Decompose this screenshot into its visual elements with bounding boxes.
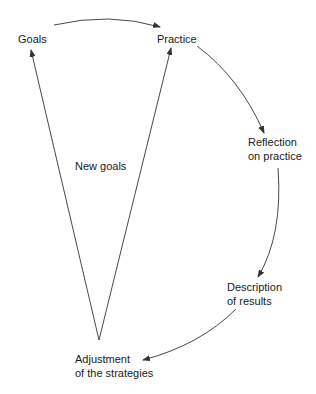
node-adjustment-line1: Adjustment [75,352,153,366]
node-adjustment: Adjustment of the strategies [75,352,153,380]
node-reflection: Reflection on practice [248,135,302,163]
node-reflection-line1: Reflection [248,135,302,149]
edge-description-to-adjustment [143,309,236,360]
node-practice: Practice [157,32,197,46]
edge-goals-to-practice [54,19,160,27]
node-adjustment-line2: of the strategies [75,366,153,380]
node-practice-label: Practice [157,33,197,45]
edge-adjustment-to-practice [99,48,171,340]
diagram-edges [0,0,316,394]
new-goals-label: New goals [75,160,126,172]
edge-reflection-to-description [258,168,279,277]
node-description-line2: of results [227,294,282,308]
node-reflection-line2: on practice [248,149,302,163]
node-description: Description of results [227,280,282,308]
node-goals-label: Goals [18,33,47,45]
edge-adjustment-to-goals [31,50,99,340]
label-new-goals: New goals [75,159,126,173]
node-description-line1: Description [227,280,282,294]
edge-practice-to-reflection [197,46,264,133]
node-goals: Goals [18,32,47,46]
